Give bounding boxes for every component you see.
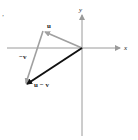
y-axis-label: y bbox=[78, 6, 83, 14]
vector-u bbox=[45, 32, 82, 48]
u-minus-v-label: u − v bbox=[34, 81, 49, 89]
u-label: u bbox=[47, 22, 51, 30]
x-axis-label: x bbox=[123, 44, 128, 52]
neg-v-label: −v bbox=[19, 53, 27, 61]
corner-mark: ’ bbox=[2, 14, 4, 20]
vector-diagram: y x u −v u − v ’ bbox=[0, 0, 138, 140]
